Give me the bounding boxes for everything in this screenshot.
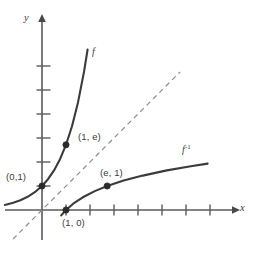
- y-axis-label: y: [24, 13, 29, 24]
- point-marker-1-e: [63, 142, 69, 148]
- point-label-1-e: (1, e): [78, 132, 101, 142]
- x-axis-label: x: [240, 203, 245, 214]
- curve-label-f-inverse: f-1: [182, 144, 191, 155]
- y-axis-arrowhead: [38, 14, 46, 22]
- curve-label-f: f: [92, 47, 95, 57]
- x-axis-arrowhead: [232, 206, 240, 214]
- graph-canvas: [0, 0, 261, 253]
- point-label-0-1: (0,1): [6, 172, 26, 182]
- point-marker-e-1: [104, 183, 110, 189]
- point-marker-0-1: [39, 183, 45, 189]
- curve-label-f-inverse-exponent: -1: [185, 143, 191, 151]
- identity-line-dashed: [13, 72, 180, 239]
- function-graph-figure: y x f f-1 (0,1) (1, e) (e, 1) (1, 0): [0, 0, 261, 253]
- point-label-e-1: (e, 1): [100, 168, 123, 178]
- point-label-1-0: (1, 0): [62, 218, 85, 228]
- point-marker-1-0: [63, 207, 69, 213]
- y-axis-ticks: [37, 66, 51, 186]
